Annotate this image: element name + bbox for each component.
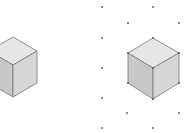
grid-dot: [178, 22, 180, 24]
grid-dot: [101, 97, 103, 99]
grid-dot: [127, 22, 129, 24]
grid-dot: [101, 6, 103, 8]
grid-dot: [101, 127, 103, 129]
grid-dot: [101, 67, 103, 69]
grid-dot: [126, 112, 128, 114]
grid-dot: [178, 112, 180, 114]
grid-dot: [101, 37, 103, 39]
left-cube: [0, 37, 37, 97]
grid-dot: [152, 6, 154, 8]
cube-diagram: [0, 0, 187, 133]
grid-dot: [152, 127, 154, 129]
